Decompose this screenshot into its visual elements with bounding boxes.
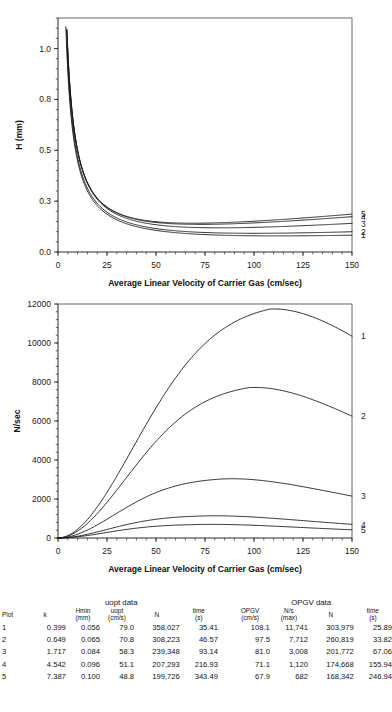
x-tick-label: 50 (151, 546, 161, 556)
plot-frame (58, 18, 352, 252)
table-cell-time2: 246.94 (354, 671, 392, 683)
header-n: N (134, 607, 180, 622)
plot-axes (58, 18, 352, 252)
curve-label-1: 1 (361, 331, 366, 341)
header-n2: N (308, 607, 354, 622)
table-cell-spacer (218, 659, 230, 671)
curve-1 (58, 309, 352, 538)
x-axis-title: Average Linear Velocity of Carrier Gas (… (108, 564, 302, 574)
header-time2-line1: time (367, 607, 379, 614)
curve-4 (67, 29, 352, 224)
x-tick-label: 75 (200, 546, 210, 556)
table-cell-uopt: 70.8 (100, 634, 134, 646)
table-row: 20.6490.06570.8308,22346.5797.57,712260,… (0, 634, 392, 646)
table-cell-opgv: 71.1 (230, 659, 269, 671)
x-tick-label: 0 (56, 546, 61, 556)
header-hmin-line1: Hmin (75, 607, 90, 614)
table-cell-plot: 4 (0, 659, 25, 671)
header-opgv-line2: (cm/s) (241, 614, 259, 621)
table-cell-n: 358,027 (134, 622, 180, 634)
header-hmin-line2: (mm) (75, 614, 90, 621)
curve-4 (58, 516, 352, 538)
table-cell-nps: 682 (270, 671, 308, 683)
header-opgv: OPGV(cm/s) (230, 607, 269, 622)
table-cell-uopt: 51.1 (100, 659, 134, 671)
header-time-line2: (s) (195, 614, 202, 621)
x-tick-label: 150 (345, 260, 359, 270)
table-cell-nps: 7,712 (270, 634, 308, 646)
table-cell-nps: 1,120 (270, 659, 308, 671)
table-cell-n2: 174,668 (308, 659, 354, 671)
table-body: 10.3990.05679.0358,02735.41108.111,74130… (0, 622, 392, 683)
table-cell-opgv: 108.1 (230, 622, 269, 634)
data-table-block: uopt data OPGV data Plot k Hmin(mm) uopt… (0, 598, 392, 710)
header-uopt: uopt(cm/s) (100, 607, 134, 622)
x-tick-label: 125 (296, 546, 310, 556)
y-tick-label: 12000 (27, 299, 51, 309)
table-row: 44.5420.09651.1207,293216.9371.11,120174… (0, 659, 392, 671)
table-cell-plot: 1 (0, 622, 25, 634)
header-time: time(s) (180, 607, 218, 622)
x-tick-label: 50 (151, 260, 161, 270)
table-cell-uopt: 79.0 (100, 622, 134, 634)
x-tick-label: 150 (345, 546, 359, 556)
header-k: k (25, 607, 66, 622)
header-uopt-line1: uopt (111, 607, 123, 614)
curve-label-5: 5 (361, 525, 366, 535)
curve-label-3: 3 (361, 491, 366, 501)
table-cell-plot: 5 (0, 671, 25, 683)
table-cell-hmin: 0.084 (66, 646, 100, 658)
header-time2-line2: (s) (369, 614, 376, 621)
header-plot: Plot (0, 607, 25, 622)
x-tick-label: 125 (296, 260, 310, 270)
table-cell-spacer (218, 646, 230, 658)
header-nps: N/s(max) (270, 607, 308, 622)
table-group-title-row: uopt data OPGV data (0, 598, 392, 607)
table-row: 57.3870.10048.8199,726343.4967.9682168,3… (0, 671, 392, 683)
curve-label-5: 5 (361, 209, 366, 219)
y-axis-title: H (mm) (14, 120, 24, 150)
header-time2: time(s) (354, 607, 392, 622)
table-cell-k: 7.387 (25, 671, 66, 683)
table-cell-n2: 201,772 (308, 646, 354, 658)
table-cell-n2: 260,819 (308, 634, 354, 646)
curve-label-2: 2 (361, 411, 366, 421)
y-tick-label: 0.0 (39, 247, 51, 257)
table-cell-k: 4.542 (25, 659, 66, 671)
curve-5 (67, 30, 352, 223)
table-cell-spacer (218, 634, 230, 646)
table-cell-n: 199,726 (134, 671, 180, 683)
y-tick-label: 0.8 (39, 94, 51, 104)
table-cell-k: 0.399 (25, 622, 66, 634)
table-cell-time2: 155.94 (354, 659, 392, 671)
header-nps-line2: (max) (281, 614, 297, 621)
table-cell-nps: 3,008 (270, 646, 308, 658)
figure-root: 0.00.30.50.81.0025507510012515012345H (m… (0, 0, 392, 712)
table-cell-n2: 168,342 (308, 671, 354, 683)
chart-plates-per-second-svg: 0200040006000800010000120000255075100125… (0, 290, 392, 600)
curve-1 (66, 27, 352, 236)
y-tick-label: 8000 (32, 377, 51, 387)
x-tick-label: 100 (247, 260, 261, 270)
header-uopt-line2: (cm/s) (108, 614, 126, 621)
table-cell-time2: 33.82 (354, 634, 392, 646)
table-cell-time2: 67.06 (354, 646, 392, 658)
x-tick-label: 25 (102, 260, 112, 270)
table-cell-time: 216.93 (180, 659, 218, 671)
table-cell-time: 343.49 (180, 671, 218, 683)
x-tick-label: 25 (102, 546, 112, 556)
table-cell-n: 207,293 (134, 659, 180, 671)
table-cell-hmin: 0.056 (66, 622, 100, 634)
table-cell-time: 46.57 (180, 634, 218, 646)
y-tick-label: 0.3 (39, 196, 51, 206)
table-cell-k: 1.717 (25, 646, 66, 658)
x-axis-title: Average Linear Velocity of Carrier Gas (… (108, 278, 302, 288)
table-cell-nps: 11,741 (270, 622, 308, 634)
table-cell-spacer (218, 622, 230, 634)
table-cell-time2: 25.89 (354, 622, 392, 634)
table-cell-n: 308,223 (134, 634, 180, 646)
table-cell-k: 0.649 (25, 634, 66, 646)
header-spacer (218, 607, 230, 622)
table-cell-hmin: 0.096 (66, 659, 100, 671)
table-cell-opgv: 67.9 (230, 671, 269, 683)
